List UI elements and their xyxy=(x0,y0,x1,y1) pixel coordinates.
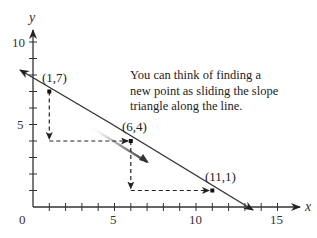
point-6-4 xyxy=(129,139,133,143)
coordinate-plane: 0 5 10 15 5 10 y x (1,7) (6,4) (11,1) xyxy=(0,0,317,238)
annotation-line-3: triangle along the line. xyxy=(130,99,310,115)
x-tick-label-10: 10 xyxy=(189,212,202,227)
point-11-1 xyxy=(210,189,214,193)
point-label-1-7: (1,7) xyxy=(42,70,67,85)
slope-triangle-2 xyxy=(131,141,209,191)
annotation-line-1: You can think of finding a xyxy=(130,68,310,84)
slope-triangle-1 xyxy=(49,92,128,142)
y-tick-label-5: 5 xyxy=(17,117,24,132)
point-label-6-4: (6,4) xyxy=(122,119,147,134)
annotation-text: You can think of finding a new point as … xyxy=(130,68,310,115)
point-1-7 xyxy=(47,90,51,94)
y-tick-label-10: 10 xyxy=(12,35,25,50)
annotation-line-2: new point as sliding the slope xyxy=(130,84,310,100)
origin-label: 0 xyxy=(19,212,26,227)
point-label-11-1: (11,1) xyxy=(205,169,236,184)
x-tick-label-15: 15 xyxy=(270,212,283,227)
x-axis-label: x xyxy=(304,199,312,214)
x-tick-label-5: 5 xyxy=(110,212,117,227)
y-axis-label: y xyxy=(27,10,36,25)
